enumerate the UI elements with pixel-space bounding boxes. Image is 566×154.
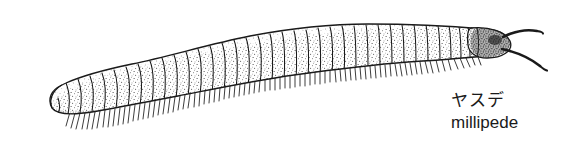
caption-english: millipede [451, 114, 518, 131]
millipede-antennae [502, 30, 547, 70]
millipede-mouthparts [472, 57, 481, 65]
millipede-figure: ヤスデ millipede [0, 0, 566, 154]
caption-japanese: ヤスデ [451, 92, 518, 109]
caption-block: ヤスデ millipede [451, 92, 518, 131]
